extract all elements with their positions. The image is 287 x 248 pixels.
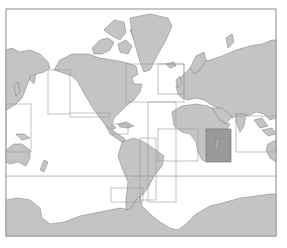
world-map bbox=[0, 0, 287, 248]
